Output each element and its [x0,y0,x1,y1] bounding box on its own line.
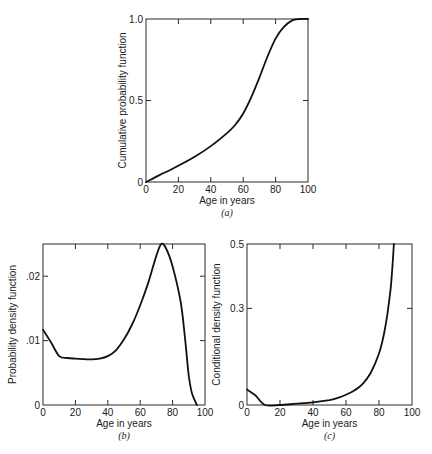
figure-canvas: 02040608010000.51.0Age in yearsCumulativ… [0,0,432,454]
x-tick-label: 60 [135,407,147,418]
x-tick-label: 80 [270,184,282,195]
panel-caption: (b) [118,430,130,442]
panel-caption: (a) [221,207,233,219]
x-axis-label: Age in years [96,418,152,429]
x-tick-label: 20 [70,407,82,418]
y-axis-label: Conditional density function [211,263,222,385]
x-tick-label: 40 [102,407,114,418]
y-tick-label: .01 [26,335,40,346]
plot-frame [247,244,412,405]
data-curve [43,244,197,405]
x-axis-label: Age in years [302,418,358,429]
y-tick-label: .02 [26,271,40,282]
chart-probability-density: 0204060801000.01.02Age in yearsProbabili… [7,244,214,442]
x-tick-label: 20 [274,407,286,418]
x-tick-label: 80 [373,407,385,418]
x-tick-label: 100 [300,184,317,195]
y-tick-label: 0.3 [230,303,244,314]
chart-cumulative-probability: 02040608010000.51.0Age in yearsCumulativ… [117,14,317,220]
y-tick-label: 0.5 [230,239,244,250]
x-tick-label: 60 [340,407,352,418]
x-tick-label: 20 [173,184,185,195]
panel-caption: (c) [324,430,336,442]
y-tick-label: 0 [34,400,40,411]
chart-conditional-density: 02040608010000.30.5Age in yearsCondition… [211,239,421,443]
y-axis-label: Probability density function [7,265,18,384]
x-tick-label: 40 [307,407,319,418]
x-tick-label: 60 [238,184,250,195]
x-tick-label: 80 [167,407,179,418]
plot-frame [43,244,205,405]
x-tick-label: 0 [40,407,46,418]
y-tick-label: 0 [137,177,143,188]
data-curve [146,19,308,182]
plot-frame [146,19,308,182]
y-axis-label: Cumulative probability function [117,32,128,168]
x-axis-label: Age in years [199,195,255,206]
data-curve [247,244,394,406]
y-tick-label: 0 [238,400,244,411]
x-tick-label: 40 [205,184,217,195]
x-tick-label: 100 [404,407,421,418]
x-tick-label: 0 [143,184,149,195]
x-tick-label: 0 [244,407,250,418]
x-tick-label: 100 [197,407,214,418]
y-tick-label: 1.0 [129,14,143,25]
y-tick-label: 0.5 [129,95,143,106]
